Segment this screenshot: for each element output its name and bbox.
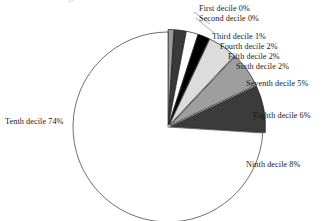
slice-label-eighth-decile: Eighth decile 6% [253,111,311,121]
slice-label-third-decile: Third decile 1% [212,32,266,42]
slice-label-second-decile: Second decile 0% [199,14,259,24]
slice-label-seventh-decile: Seventh decile 5% [246,79,308,89]
slice-label-ninth-decile: Ninth decile 8% [246,160,300,170]
slice-label-fourth-decile: Fourth decile 2% [220,42,278,52]
pie-chart-figure: g First decile 0% Second decile 0% Third… [0,0,334,221]
slice-label-sixth-decile: Sixth decile 2% [236,62,289,72]
slice-label-first-decile: First decile 0% [199,4,250,14]
slice-label-fifth-decile: Fifth decile 2% [228,52,280,62]
slice-label-tenth-decile: Tenth decile 74% [5,117,63,127]
